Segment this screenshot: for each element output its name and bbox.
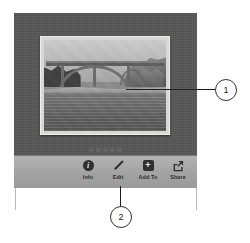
- plus-box-icon: +: [143, 158, 154, 173]
- photo-bridge-pier: [61, 65, 64, 89]
- share-icon: [172, 158, 184, 173]
- pencil-icon: [112, 158, 125, 173]
- add-to-button-label: Add To: [139, 174, 158, 180]
- photo-bridge-pier: [127, 65, 130, 89]
- share-button-label: Share: [170, 174, 185, 180]
- edit-button-label: Edit: [113, 174, 124, 180]
- frame-tick-left: [15, 188, 16, 210]
- rating-star[interactable]: ☆: [102, 146, 108, 153]
- photo-rating[interactable]: ☆☆☆☆☆: [40, 139, 170, 155]
- edit-button[interactable]: Edit: [103, 158, 133, 180]
- info-icon: i: [83, 158, 94, 173]
- info-button-label: Info: [83, 174, 93, 180]
- callout-1-leader-line: [126, 89, 215, 90]
- plus-glyph: +: [143, 160, 154, 171]
- toolbar-items: i Info Edit + Add To: [73, 158, 193, 180]
- photo-river: [44, 87, 166, 131]
- rating-star[interactable]: ☆: [109, 146, 115, 153]
- photo-frame[interactable]: [40, 36, 170, 135]
- photo-toolbar: i Info Edit + Add To: [14, 155, 197, 188]
- info-glyph: i: [83, 160, 94, 171]
- photo-image[interactable]: [44, 40, 166, 131]
- rating-star[interactable]: ☆: [88, 146, 94, 153]
- photo-bridge-pier: [93, 65, 96, 89]
- callout-1: 1: [215, 79, 237, 101]
- callout-2: 2: [110, 206, 132, 228]
- rating-star[interactable]: ☆: [95, 146, 101, 153]
- add-to-button[interactable]: + Add To: [133, 158, 163, 180]
- info-button[interactable]: i Info: [73, 158, 103, 180]
- rating-star[interactable]: ☆: [116, 146, 122, 153]
- photo-viewer-window: ☆☆☆☆☆ i Info Edit: [14, 13, 197, 188]
- share-button[interactable]: Share: [163, 158, 193, 180]
- callout-2-leader-line: [120, 186, 121, 207]
- frame-tick-right: [196, 188, 197, 210]
